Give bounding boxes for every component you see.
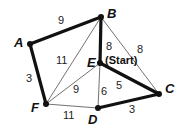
edge-b-e — [100, 17, 101, 63]
node-label-d: D — [88, 112, 98, 127]
edge-a-f — [30, 44, 46, 104]
edge-f-d — [46, 104, 98, 108]
edge-e-d — [98, 63, 100, 108]
node-label-b: B — [107, 6, 116, 21]
node-e — [97, 60, 103, 66]
weighted-graph-diagram: 938531189611 ABCDEF (Start) — [0, 0, 186, 131]
node-label-e: E — [87, 55, 96, 70]
node-label-c: C — [165, 81, 175, 96]
edge-weight-e-c: 5 — [116, 79, 122, 91]
edge-weight-b-c: 8 — [137, 43, 143, 55]
edge-weight-e-d: 6 — [101, 85, 107, 97]
node-label-a: A — [13, 35, 23, 50]
edge-a-b — [30, 17, 101, 44]
edge-e-c — [100, 63, 159, 94]
edge-weight-b-f: 11 — [56, 54, 67, 66]
edge-weight-a-f: 3 — [26, 72, 32, 84]
node-c — [156, 91, 162, 97]
edge-weight-f-d: 11 — [63, 109, 74, 121]
edge-weight-e-f: 9 — [73, 83, 79, 95]
node-a — [27, 41, 33, 47]
node-b — [98, 14, 104, 20]
node-label-f: F — [31, 100, 40, 115]
node-d — [95, 105, 101, 111]
start-label: (Start) — [105, 54, 138, 66]
edge-weight-b-e: 8 — [106, 40, 112, 52]
edge-weight-c-d: 3 — [129, 103, 135, 115]
node-f — [43, 101, 49, 107]
edge-weight-a-b: 9 — [58, 14, 64, 26]
